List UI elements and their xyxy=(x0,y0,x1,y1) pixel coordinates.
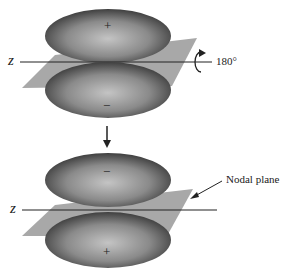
down-arrow-icon xyxy=(103,140,111,148)
top-axis-label: z xyxy=(8,52,14,69)
pointer-arrowhead-icon xyxy=(190,192,199,199)
top-lower-sign: − xyxy=(103,98,110,114)
top-upper-sign: + xyxy=(104,18,111,34)
nodal-plane-pointer xyxy=(195,181,222,196)
bottom-upper-lobe xyxy=(45,153,171,207)
nodal-plane-label: Nodal plane xyxy=(226,173,279,185)
bottom-upper-sign: − xyxy=(103,164,110,180)
bottom-axis-label: z xyxy=(10,200,16,217)
rotation-arrowhead-icon xyxy=(199,49,206,57)
bottom-lower-sign: + xyxy=(103,244,110,260)
rotation-label: 180° xyxy=(216,55,237,67)
orbital-diagram xyxy=(0,0,294,276)
